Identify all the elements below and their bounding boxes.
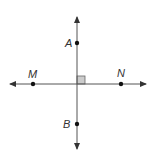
point-n: [119, 82, 123, 86]
point-b: [75, 122, 79, 126]
label-b: B: [63, 118, 70, 130]
label-a: A: [64, 37, 72, 49]
point-m: [31, 82, 35, 86]
perpendicular-lines-diagram: A B M N: [0, 0, 155, 160]
right-angle-marker: [77, 76, 85, 84]
point-a: [75, 41, 79, 45]
label-n: N: [117, 67, 125, 79]
label-m: M: [28, 68, 38, 80]
